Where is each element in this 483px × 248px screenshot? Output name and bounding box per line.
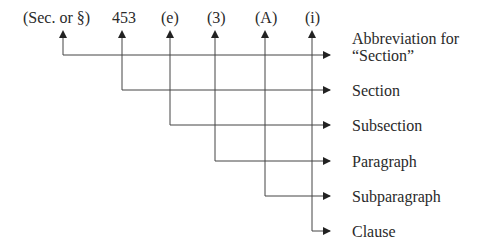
- label-section: Section: [352, 82, 400, 100]
- label-abbreviation-line2: “Section”: [352, 47, 414, 65]
- label-subsection: Subsection: [352, 117, 422, 135]
- up-arrowheads: [59, 30, 316, 38]
- citation-diagram: (Sec. or §) 453 (e) (3) (A) (i) Abb: [0, 0, 483, 248]
- connector-clause: [312, 36, 330, 231]
- connector-subsection: [170, 36, 330, 125]
- connector-abbrev: [63, 36, 330, 55]
- label-subparagraph: Subparagraph: [352, 188, 441, 206]
- connector-subparagraph: [265, 36, 330, 196]
- label-paragraph: Paragraph: [352, 153, 417, 171]
- connector-section: [122, 36, 330, 90]
- label-abbreviation-line1: Abbreviation for: [352, 30, 459, 48]
- label-clause: Clause: [352, 223, 396, 241]
